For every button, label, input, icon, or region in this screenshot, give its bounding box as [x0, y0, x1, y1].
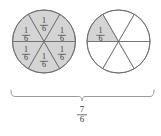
- left-circle: 1 6 1 6 1 6 1 6 1 6: [13, 10, 76, 73]
- total-denominator: 6: [80, 114, 85, 124]
- right-circle: 1 6: [87, 10, 150, 73]
- left-sector-0-denominator: 6: [60, 34, 64, 43]
- left-sector-2-denominator: 6: [24, 34, 28, 43]
- brace-path: [11, 90, 154, 101]
- total-fraction-label: 7 6: [77, 104, 87, 124]
- fraction-figure: 1 6 1 6 1 6 1 6 1 6: [0, 0, 161, 136]
- total-numerator: 7: [80, 104, 85, 114]
- total-brace: [11, 90, 154, 101]
- fraction-diagram-svg: 1 6 1 6 1 6 1 6 1 6: [0, 0, 161, 136]
- left-sector-1-denominator: 6: [42, 24, 46, 33]
- right-sector-2-denominator: 6: [99, 34, 103, 43]
- left-sector-4-denominator: 6: [42, 60, 46, 69]
- left-sector-3-denominator: 6: [24, 53, 28, 62]
- left-sector-5-denominator: 6: [60, 53, 64, 62]
